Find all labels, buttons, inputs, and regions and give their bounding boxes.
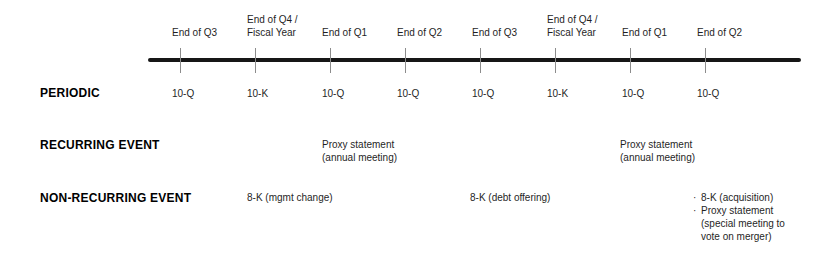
timeline-axis <box>148 58 801 62</box>
non-recurring-entry: · Proxy statement (special meeting to vo… <box>693 204 785 243</box>
filing-timeline-figure: End of Q3 End of Q4 / Fiscal Year End of… <box>0 0 839 263</box>
timeline-point-label: End of Q2 <box>697 27 742 40</box>
non-recurring-entry: 8-K (mgmt change) <box>247 191 333 204</box>
timeline-point-label: End of Q1 <box>622 27 667 40</box>
row-label-non-recurring: NON-RECURRING EVENT <box>40 191 191 205</box>
timeline-point-label: End of Q4 / Fiscal Year <box>547 14 598 39</box>
timeline-tick <box>330 48 331 73</box>
periodic-value: 10-Q <box>322 88 344 100</box>
row-label-recurring: RECURRING EVENT <box>40 138 160 152</box>
timeline-tick <box>480 48 481 73</box>
bullet-marker: · <box>693 204 701 217</box>
timeline-point-label: End of Q2 <box>397 27 442 40</box>
timeline-tick <box>405 48 406 73</box>
non-recurring-entry: · 8-K (acquisition) <box>693 191 785 204</box>
periodic-value: 10-K <box>247 88 268 100</box>
periodic-value: 10-Q <box>622 88 644 100</box>
periodic-value: 10-Q <box>697 88 719 100</box>
periodic-value: 10-Q <box>472 88 494 100</box>
bullet-text: Proxy statement (special meeting to vote… <box>701 204 785 243</box>
non-recurring-bullet-list: · 8-K (acquisition) · Proxy statement (s… <box>693 191 785 243</box>
timeline-point-label: End of Q3 <box>172 27 217 40</box>
timeline-point-label: End of Q1 <box>322 27 367 40</box>
periodic-value: 10-Q <box>172 88 194 100</box>
timeline-point-label: End of Q3 <box>472 27 517 40</box>
periodic-value: 10-Q <box>397 88 419 100</box>
timeline-tick <box>630 48 631 73</box>
non-recurring-entry: 8-K (debt offering) <box>470 191 550 204</box>
timeline-point-label: End of Q4 / Fiscal Year <box>247 14 298 39</box>
timeline-tick <box>555 48 556 73</box>
row-label-periodic: PERIODIC <box>40 86 100 100</box>
bullet-text: 8-K (acquisition) <box>701 191 773 204</box>
timeline-tick <box>705 48 706 73</box>
periodic-value: 10-K <box>547 88 568 100</box>
recurring-entry: Proxy statement (annual meeting) <box>620 138 695 164</box>
bullet-marker: · <box>693 191 701 204</box>
timeline-tick <box>255 48 256 73</box>
timeline-tick <box>180 48 181 73</box>
recurring-entry: Proxy statement (annual meeting) <box>322 138 397 164</box>
